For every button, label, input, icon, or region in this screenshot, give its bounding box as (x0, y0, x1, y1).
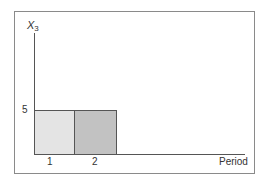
x-tick-label-1: 1 (47, 157, 53, 167)
bar-period-1 (34, 110, 75, 155)
bar-period-2 (74, 110, 117, 155)
x-tick-label-2: 2 (92, 157, 98, 167)
y-axis-label: X3 (27, 20, 39, 33)
x-axis-label: Period (219, 157, 248, 167)
y-tick-label: 5 (22, 105, 28, 115)
